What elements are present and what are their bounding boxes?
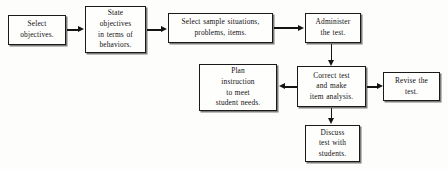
arrowhead-correct-to-plan	[279, 83, 285, 89]
arrowhead-correct-to-revise	[377, 83, 383, 89]
arrowhead-correct-to-discuss	[328, 118, 334, 124]
node-select-objectives-label: Selectobjectives.	[11, 19, 63, 40]
node-administer-test-label: Administerthe test.	[308, 17, 358, 38]
node-discuss-test-label: Discusstest withstudents.	[308, 128, 357, 160]
flowchart-canvas: Selectobjectives. Stateobjectivesin term…	[0, 0, 448, 169]
node-select-sample-situations[interactable]: Select sample situations,problems, items…	[168, 13, 273, 43]
arrowhead-select-objectives-to-state-objectives	[78, 26, 84, 32]
arrowhead-state-objectives-to-select-sample	[161, 26, 167, 32]
node-plan-instruction[interactable]: Planinstructionto meetstudent needs.	[199, 64, 277, 111]
node-select-sample-situations-label: Select sample situations,problems, items…	[171, 17, 270, 38]
node-revise-test[interactable]: Revise thetest.	[383, 72, 440, 101]
arrowhead-select-sample-to-administer	[298, 25, 304, 31]
node-correct-test[interactable]: Correct testand makeitem analysis.	[297, 66, 366, 107]
node-administer-test[interactable]: Administerthe test.	[305, 13, 361, 43]
node-revise-test-label: Revise thetest.	[386, 76, 437, 97]
node-state-objectives[interactable]: Stateobjectivesin terms ofbehaviors.	[85, 6, 146, 53]
node-discuss-test[interactable]: Discusstest withstudents.	[305, 125, 360, 162]
node-state-objectives-label: Stateobjectivesin terms ofbehaviors.	[88, 8, 143, 50]
arrowhead-administer-to-correct	[328, 60, 334, 66]
connector-state-objectives-to-select-sample	[147, 29, 162, 31]
node-plan-instruction-label: Planinstructionto meetstudent needs.	[202, 66, 274, 108]
node-correct-test-label: Correct testand makeitem analysis.	[300, 71, 363, 103]
connector-select-sample-to-administer	[274, 27, 299, 29]
connector-correct-to-plan	[285, 86, 298, 88]
node-select-objectives[interactable]: Selectobjectives.	[8, 15, 66, 45]
